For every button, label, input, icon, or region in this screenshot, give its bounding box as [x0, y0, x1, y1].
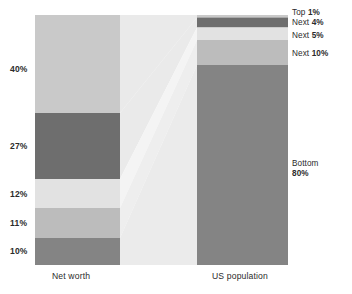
segment-label-top-1-value: 1%: [308, 8, 320, 17]
segment-label-bottom-80-value: 80%: [292, 169, 309, 178]
bar-segment-us-population-next4: [197, 18, 288, 28]
bar-segment-us-population-next10: [197, 40, 288, 65]
segment-label-next-5-prefix: Next: [292, 31, 312, 40]
y-tick-label-27: 27%: [10, 141, 28, 151]
bar-segment-net-worth-next4: [35, 113, 120, 179]
slope-distribution-chart: 40% 27% 12% 11% 10% Top 1% Next 4% Next …: [0, 0, 352, 294]
y-tick-label-10: 10%: [10, 246, 28, 256]
y-tick-label-11: 11%: [10, 218, 27, 228]
segment-label-next-4-value: 4%: [312, 18, 324, 27]
segment-label-next-5-value: 5%: [312, 31, 324, 40]
segment-label-top-1: Top 1%: [292, 8, 320, 18]
segment-label-next-5: Next 5%: [292, 31, 324, 41]
segment-label-next-4: Next 4%: [292, 18, 324, 28]
segment-label-next-10-prefix: Next: [292, 49, 312, 58]
chart-canvas: [0, 0, 352, 294]
bar-segment-net-worth-top1: [35, 15, 120, 113]
bar-segment-us-population-top1: [197, 15, 288, 18]
segment-label-next-4-prefix: Next: [292, 18, 312, 27]
bar-segment-net-worth-next10: [35, 208, 120, 238]
y-tick-label-12: 12%: [10, 189, 28, 199]
segment-label-bottom-80-prefix: Bottom: [292, 159, 319, 168]
bar-net-worth: [35, 15, 120, 265]
segment-label-top-1-prefix: Top: [292, 8, 308, 17]
segment-label-next-10: Next 10%: [292, 49, 328, 59]
bar-segment-us-population-bottom80: [197, 65, 288, 265]
bar-segment-net-worth-bottom80: [35, 238, 120, 265]
x-axis-label-us-population: US population: [212, 271, 268, 281]
segment-label-bottom-80: Bottom 80%: [292, 159, 319, 179]
bar-us-population: [197, 15, 288, 265]
bar-segment-us-population-next5: [197, 28, 288, 41]
flow-ribbons: [120, 15, 197, 265]
segment-label-next-10-value: 10%: [312, 49, 329, 58]
bar-segment-net-worth-next5: [35, 179, 120, 208]
x-axis-label-net-worth: Net worth: [52, 271, 90, 281]
y-tick-label-40: 40%: [10, 64, 28, 74]
